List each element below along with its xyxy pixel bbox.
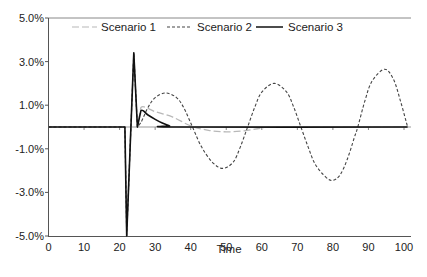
y-tick-label: -3.0% <box>15 186 44 198</box>
line-chart: 5.0%3.0%1.0%-1.0%-3.0%-5.0% 010203040506… <box>0 0 427 277</box>
x-tick-label: 30 <box>149 241 161 253</box>
legend-label: Scenario 3 <box>288 21 343 33</box>
legend-item-scenario-2[interactable]: Scenario 2 <box>167 21 252 33</box>
series-scenario-3 <box>49 53 408 236</box>
x-tick-label: 20 <box>113 241 125 253</box>
legend-label: Scenario 1 <box>101 21 156 33</box>
series-scenario-1 <box>49 53 408 236</box>
legend: Scenario 1 Scenario 2 Scenario 3 <box>72 21 343 33</box>
x-tick-label: 60 <box>256 241 268 253</box>
series-layer <box>49 53 408 236</box>
y-tick-label: 5.0% <box>19 12 44 24</box>
x-tick-label: 40 <box>185 241 197 253</box>
x-tick-label: 100 <box>395 241 413 253</box>
x-tick-label: 90 <box>362 241 374 253</box>
x-tick-label: 0 <box>45 241 51 253</box>
legend-item-scenario-1[interactable]: Scenario 1 <box>72 21 156 33</box>
y-tick-label: 1.0% <box>19 99 44 111</box>
x-tick-label: 70 <box>291 241 303 253</box>
x-tick-label: 10 <box>78 241 90 253</box>
x-tick-label: 80 <box>327 241 339 253</box>
y-tick-label: -5.0% <box>15 230 44 242</box>
y-axis-ticks: 5.0%3.0%1.0%-1.0%-3.0%-5.0% <box>15 12 48 242</box>
y-tick-label: -1.0% <box>15 143 44 155</box>
y-tick-label: 3.0% <box>19 56 44 68</box>
series-scenario-2 <box>49 53 408 236</box>
x-axis-title: Time <box>216 243 241 255</box>
legend-label: Scenario 2 <box>197 21 252 33</box>
legend-item-scenario-3[interactable]: Scenario 3 <box>256 21 343 33</box>
